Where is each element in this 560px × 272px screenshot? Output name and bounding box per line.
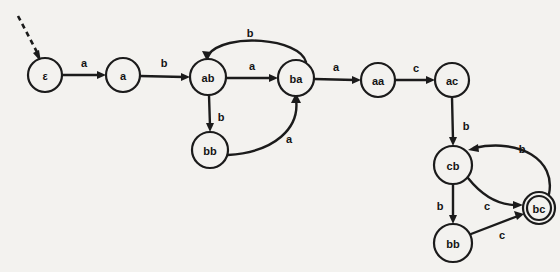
edge-label-cb-to-bc: c: [484, 200, 490, 212]
edge-bb-upper-to-ba: a: [228, 93, 301, 155]
edge-bc-to-cb: b: [468, 143, 550, 194]
edge-ba-to-aa-line: [314, 79, 355, 80]
node-ab-label: ab: [202, 72, 215, 84]
edge-bc-to-cb-arrowhead-icon: [468, 144, 479, 152]
node-ac[interactable]: ac: [435, 63, 469, 97]
edge-label-ba-to-aa: a: [333, 61, 340, 73]
node-bb-lower[interactable]: bb: [434, 224, 472, 262]
edge-eps-to-a: a: [62, 57, 106, 79]
node-a-label: a: [120, 70, 127, 82]
edge-ab-to-bb-upper-arrowhead-icon: [206, 123, 214, 132]
edge-bb-lower-to-bc: c: [471, 211, 524, 241]
edge-eps-to-a-arrowhead-icon: [97, 71, 106, 79]
start-arrow: [18, 16, 41, 62]
node-cb-label: cb: [447, 160, 460, 172]
edge-bb-upper-to-ba-curve: [228, 99, 296, 155]
edge-label-bb-upper-to-ba: a: [286, 133, 293, 145]
edge-group: a b a b: [62, 27, 550, 241]
edge-ba-to-aa: a: [314, 61, 361, 84]
node-ba[interactable]: ba: [278, 60, 314, 96]
node-bb-upper-label: bb: [203, 145, 217, 157]
node-bb-upper[interactable]: bb: [192, 132, 228, 168]
edge-ac-to-cb-line: [452, 97, 453, 140]
edge-aa-to-ac-arrowhead-icon: [426, 76, 435, 84]
node-bc-accepting[interactable]: bc: [523, 192, 555, 224]
edge-ac-to-cb-arrowhead-icon: [449, 137, 457, 146]
state-diagram-svg: a b a b: [0, 0, 560, 272]
edge-ac-to-cb: b: [449, 97, 470, 146]
edge-ab-to-bb-upper: b: [206, 95, 225, 132]
edge-ab-to-ba-arrowhead-icon: [269, 74, 278, 82]
edge-label-ac-to-cb: b: [463, 120, 470, 132]
edge-label-aa-to-ac: c: [413, 62, 419, 74]
node-ac-label: ac: [446, 75, 458, 87]
node-eps-label: ε: [42, 70, 48, 82]
edge-label-ab-to-ba: a: [249, 60, 256, 72]
edge-label-bb-lower-to-bc: c: [499, 229, 505, 241]
edge-a-to-ab: b: [140, 57, 190, 81]
node-cb[interactable]: cb: [434, 146, 472, 184]
edge-cb-to-bb-lower: b: [437, 184, 457, 224]
node-aa-label: aa: [372, 75, 385, 87]
edge-a-to-ab-arrowhead-icon: [181, 73, 190, 81]
edge-ba-to-ab-curve: [208, 41, 306, 62]
edge-cb-to-bb-lower-arrowhead-icon: [449, 215, 457, 224]
edge-cb-to-bc-curve: [468, 178, 516, 205]
edge-label-bc-to-cb: b: [519, 143, 526, 155]
edge-cb-to-bc: c: [468, 178, 523, 212]
edge-a-to-ab-line: [140, 76, 184, 77]
edge-ab-to-bb-upper-line: [209, 95, 210, 126]
start-arrow-dashed-line: [18, 16, 38, 54]
edge-label-cb-to-bb-lower: b: [437, 200, 444, 212]
node-a[interactable]: a: [106, 58, 140, 92]
edge-label-ba-to-ab: b: [247, 27, 254, 39]
edge-bb-lower-to-bc-line: [471, 216, 518, 234]
edge-ba-to-ab: b: [202, 27, 306, 62]
node-bc-label: bc: [533, 203, 546, 215]
edge-label-eps-to-a: a: [81, 57, 88, 69]
node-ba-label: ba: [290, 73, 304, 85]
edge-ab-to-ba: a: [226, 60, 278, 82]
node-bb-lower-label: bb: [446, 238, 460, 250]
edge-aa-to-ac: c: [395, 62, 435, 84]
node-ab[interactable]: ab: [190, 59, 226, 95]
edge-ba-to-aa-arrowhead-icon: [352, 76, 361, 84]
node-aa[interactable]: aa: [361, 63, 395, 97]
edge-bc-to-cb-curve: [474, 146, 550, 194]
diagram-canvas: a b a b: [0, 0, 560, 272]
edge-label-ab-to-bb-upper: b: [218, 111, 225, 123]
edge-cb-to-bc-arrowhead-icon: [513, 201, 523, 209]
edge-label-a-to-ab: b: [161, 57, 168, 69]
node-eps[interactable]: ε: [28, 58, 62, 92]
